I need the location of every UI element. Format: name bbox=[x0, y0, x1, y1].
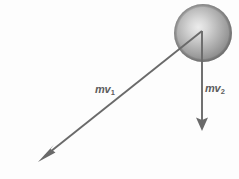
vector-label-mv2: mv2 bbox=[205, 83, 225, 94]
diagram-canvas bbox=[0, 0, 239, 179]
vector-label-mv1-symbol: m bbox=[95, 83, 105, 95]
vector-label-mv2-subscript: 2 bbox=[221, 87, 225, 96]
vector-mv1 bbox=[38, 31, 202, 162]
vector-mv1-shaft bbox=[45, 31, 202, 156]
vector-label-mv1: mv1 bbox=[95, 84, 115, 95]
vector-label-mv1-velocity: v bbox=[105, 83, 111, 95]
ball-sphere-edge-shade bbox=[174, 4, 232, 62]
vector-diagram-figure: mv1 mv2 bbox=[0, 0, 239, 179]
vector-label-mv2-symbol: m bbox=[205, 82, 215, 94]
vector-mv1-arrowhead bbox=[38, 145, 56, 163]
vector-label-mv1-subscript: 1 bbox=[111, 88, 115, 97]
vector-label-mv2-velocity: v bbox=[215, 82, 221, 94]
